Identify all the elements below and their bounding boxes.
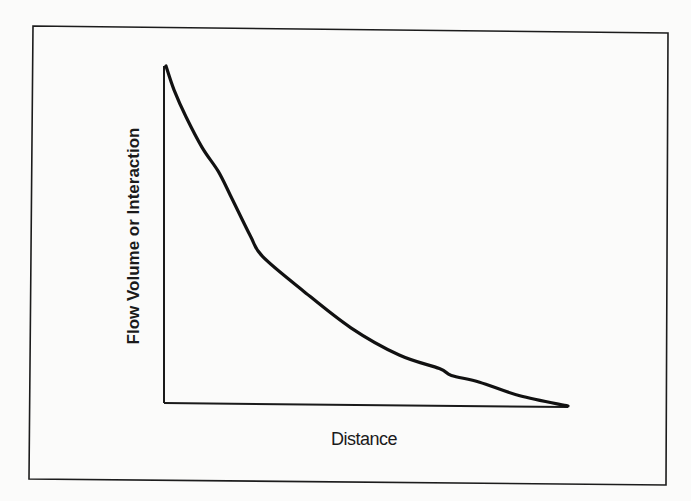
- x-axis-label: Distance: [331, 429, 398, 449]
- y-axis-label: Flow Volume or Interaction: [124, 128, 143, 345]
- decay-curve: [166, 66, 568, 406]
- chart: Flow Volume or Interaction Distance: [0, 0, 691, 501]
- x-axis: [164, 403, 568, 407]
